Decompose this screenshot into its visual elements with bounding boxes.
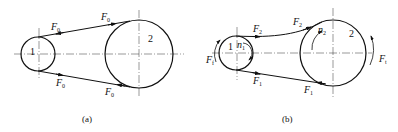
pulley-label-2: 2 [349, 28, 354, 39]
speed-label-n2: n2 [318, 24, 326, 36]
pulley-label-1: 1 [30, 46, 35, 57]
speed-label-n1: n1 [237, 39, 245, 51]
force-label: F2 [252, 23, 262, 35]
pulley-label-2: 2 [148, 33, 153, 44]
caption-a: (a) [82, 114, 92, 124]
figure-b: 1 2 n1 n2 F2 F2 F1 F1 Ff Ft (b) [205, 8, 387, 124]
belt-drive-diagram: 1 2 F0 F0 F0 F0 (a) 1 2 n1 n2 [0, 0, 398, 132]
arrow-icon [317, 83, 325, 84]
force-label: F1 [303, 84, 313, 96]
force-label: F2 [292, 16, 302, 28]
force-label: F1 [252, 75, 262, 87]
figure-a: 1 2 F0 F0 F0 F0 (a) [14, 10, 184, 124]
belt-bottom-span [236, 70, 326, 84]
force-label: F0 [50, 21, 60, 33]
force-label: F0 [104, 86, 114, 98]
caption-b: (b) [282, 114, 293, 124]
belt-top-span [236, 22, 322, 36]
force-label: F0 [55, 77, 65, 89]
force-label: F0 [100, 11, 110, 23]
force-label: Ff [205, 54, 214, 66]
force-label: Ft [378, 53, 387, 65]
pulley-label-1: 1 [228, 41, 233, 52]
friction-arrow-large-icon [370, 36, 373, 65]
